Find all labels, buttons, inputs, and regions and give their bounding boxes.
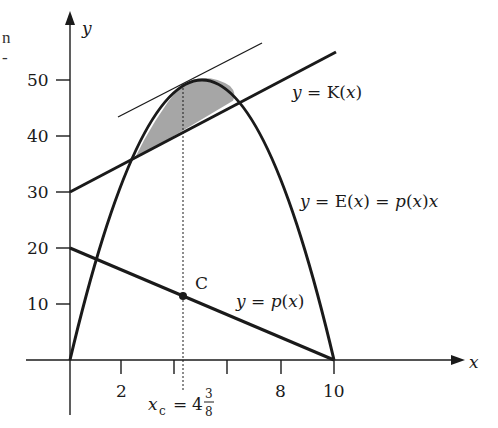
x-axis-label: x xyxy=(469,352,479,372)
svg-text:3: 3 xyxy=(205,387,213,401)
y-tick-label: 40 xyxy=(27,126,49,146)
x-ticks xyxy=(121,360,334,374)
cropped-text-fragment: n xyxy=(2,28,11,48)
svg-text:=: = xyxy=(173,394,187,414)
svg-text:x: x xyxy=(148,394,158,414)
y-tick-label: 20 xyxy=(27,238,49,258)
x-tick-label: 2 xyxy=(116,381,127,401)
xc-label: x c = 4 3 8 xyxy=(148,387,214,419)
shaded-profit-region xyxy=(134,78,234,159)
x-tick-label: 10 xyxy=(323,381,345,401)
svg-text:c: c xyxy=(159,404,166,418)
point-c-marker xyxy=(179,292,187,300)
svg-text:4: 4 xyxy=(192,394,203,414)
y-ticks xyxy=(56,80,70,304)
y-tick-label: 10 xyxy=(27,294,49,314)
e-curve-label: y = E(x) = p(x)x xyxy=(299,191,439,211)
y-axis-arrow-icon xyxy=(65,11,75,25)
x-axis-arrow-icon xyxy=(451,355,465,365)
p-curve-label: y = p(x) xyxy=(235,291,304,311)
x-tick-label: 8 xyxy=(275,381,286,401)
y-axis-label: y xyxy=(81,18,92,38)
cropped-text-fragment: - xyxy=(2,48,8,68)
svg-text:8: 8 xyxy=(205,405,213,419)
chart-figure: n - xyxy=(0,0,498,428)
y-tick-label: 50 xyxy=(27,70,49,90)
point-c-label: C xyxy=(195,273,208,293)
k-curve-label: y = K(x) xyxy=(291,82,362,102)
y-tick-label: 30 xyxy=(27,182,49,202)
